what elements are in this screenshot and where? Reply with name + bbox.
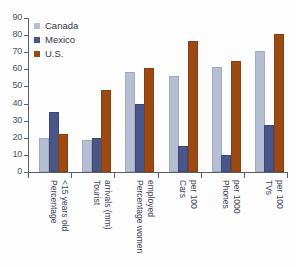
bar-us-0	[58, 134, 68, 172]
legend-item-mexico: Mexico	[34, 33, 78, 46]
bar-us-4	[231, 61, 241, 172]
bar-chart: 0102030405060708090 CanadaMexicoU.S. Per…	[0, 0, 296, 267]
y-axis-tick-label: 10	[0, 150, 22, 159]
bar-canada-3	[169, 76, 179, 172]
category-label-4: Phonesper 1000	[220, 180, 260, 202]
bar-mexico-3	[178, 146, 188, 172]
legend-item-us: U.S.	[34, 47, 78, 60]
bar-canada-0	[39, 138, 49, 173]
bar-mexico-2	[135, 104, 145, 172]
y-axis-tick-label: 30	[0, 116, 22, 125]
category-label-line: TVs	[263, 180, 274, 195]
category-labels: Percentage<15 years oldTouristarrivals (…	[28, 178, 288, 266]
category-label-line: employed	[145, 180, 156, 217]
category-label-0: Percentage<15 years old	[48, 180, 88, 202]
bar-mexico-4	[221, 155, 231, 172]
bar-us-1	[101, 90, 111, 172]
category-label-line: Percentage	[48, 180, 59, 223]
bar-canada-4	[212, 67, 222, 172]
bar-mexico-5	[264, 125, 274, 172]
legend-label: U.S.	[45, 49, 63, 59]
legend-swatch-icon	[34, 37, 40, 43]
category-label-line: Percentage women	[134, 180, 145, 253]
bar-canada-1	[82, 140, 92, 172]
category-label-3: Carsper 100	[177, 180, 217, 202]
bar-mexico-0	[49, 112, 59, 172]
legend-item-canada: Canada	[34, 19, 78, 32]
category-label-line: per 100	[274, 180, 285, 209]
bar-us-3	[188, 41, 198, 172]
y-axis-tick-label: 80	[0, 30, 22, 39]
bar-us-2	[144, 68, 154, 172]
category-label-2: Percentage womenemployed	[134, 180, 174, 202]
category-label-line: Cars	[177, 180, 188, 198]
legend-label: Mexico	[45, 35, 75, 45]
legend-label: Canada	[45, 21, 78, 31]
category-label-line: Tourist	[91, 180, 102, 205]
legend-swatch-icon	[34, 23, 40, 29]
bar-us-5	[274, 34, 284, 172]
y-axis-tick-label: 70	[0, 47, 22, 56]
bar-mexico-1	[92, 138, 102, 173]
y-axis-tick-label: 60	[0, 64, 22, 73]
category-label-line: Phones	[220, 180, 231, 209]
bar-canada-2	[125, 72, 135, 172]
category-label-line: per 100	[188, 180, 199, 209]
y-axis-tick-label: 90	[0, 13, 22, 22]
y-axis-tick-label: 20	[0, 133, 22, 142]
bar-canada-5	[255, 51, 265, 172]
category-label-line: <15 years old	[59, 180, 70, 231]
y-axis-tick-label: 0	[0, 167, 22, 176]
category-label-line: per 1000	[231, 180, 242, 214]
legend-swatch-icon	[34, 51, 40, 57]
category-label-1: Touristarrivals (mm)	[91, 180, 131, 202]
y-axis-tick-label: 40	[0, 99, 22, 108]
category-label-5: TVsper 100	[263, 180, 296, 202]
y-axis-tick-label: 50	[0, 81, 22, 90]
legend: CanadaMexicoU.S.	[34, 19, 78, 61]
category-label-line: arrivals (mm)	[102, 180, 113, 230]
